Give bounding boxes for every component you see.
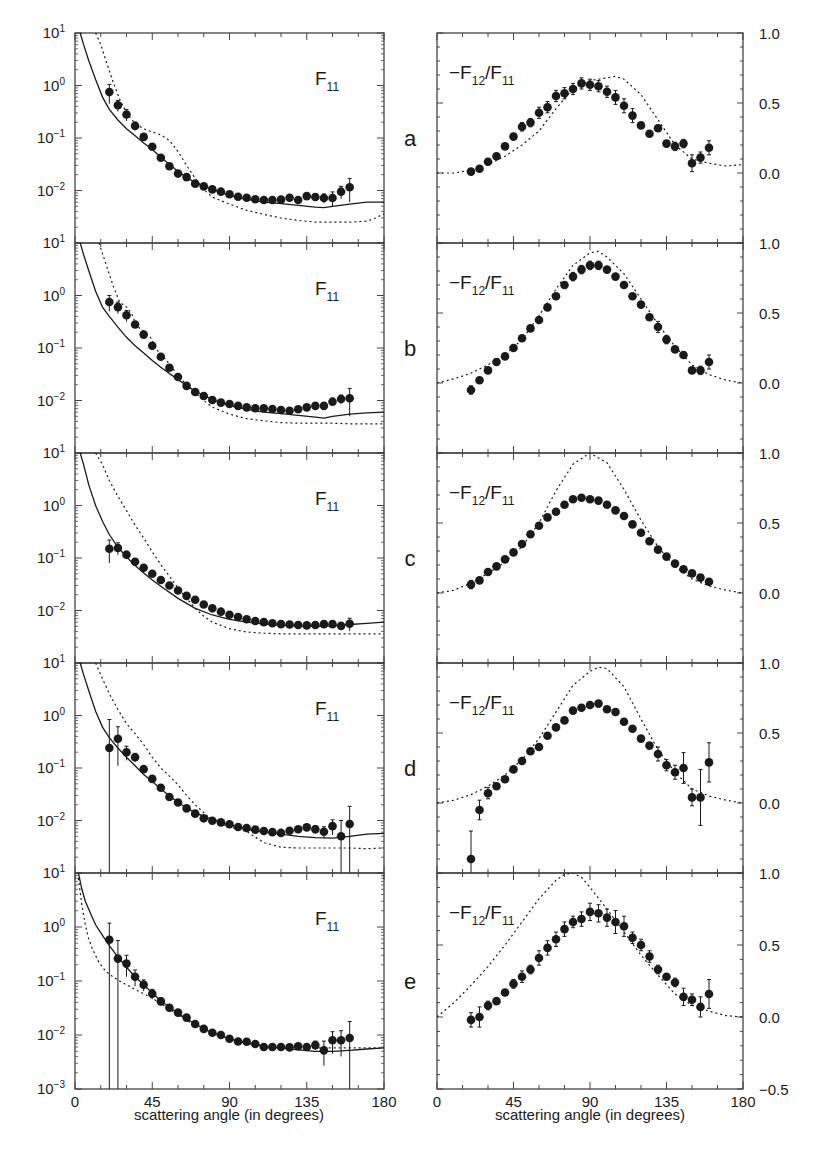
data-point: [518, 540, 527, 549]
data-point: [603, 501, 612, 510]
y-tick-label: 10−2: [37, 601, 66, 619]
data-point: [484, 366, 493, 375]
data-point: [543, 732, 552, 741]
plot-frame: [75, 33, 384, 243]
data-point: [620, 922, 629, 931]
data-point: [285, 193, 294, 202]
data-point: [696, 573, 705, 582]
data-point: [251, 195, 260, 204]
data-point: [603, 265, 612, 274]
f11-panel-a: 10−210−1100101F11: [37, 23, 384, 243]
left-column-f11-panels: 10−210−1100101F1110−210−1100101F1110−210…: [37, 23, 397, 1110]
data-point: [543, 944, 552, 953]
y-tick-label: 101: [43, 863, 66, 881]
polarization-title: −F12/F11: [449, 692, 515, 718]
model-curve-solid: [80, 33, 384, 208]
y-tick-label: 0.0: [759, 165, 780, 182]
data-point: [586, 495, 595, 504]
y-tick-label: 101: [43, 653, 66, 671]
model-curve-dotted: [437, 251, 743, 383]
panel-label-a: a: [404, 126, 417, 151]
data-point: [320, 194, 329, 203]
data-point: [586, 261, 595, 270]
data-point: [320, 827, 329, 836]
data-point: [345, 1034, 354, 1043]
data-point: [569, 85, 578, 94]
data-point: [552, 508, 561, 517]
data-point: [662, 139, 671, 148]
data-point: [671, 142, 680, 151]
data-point: [688, 569, 697, 578]
data-point: [501, 988, 510, 997]
polarization-title: −F12/F11: [449, 902, 515, 928]
y-tick-label: 100: [43, 286, 66, 304]
y-tick-label: 100: [43, 76, 66, 94]
data-point: [122, 748, 131, 757]
y-tick-label: 101: [43, 443, 66, 461]
data-point: [320, 620, 329, 629]
scattering-figure: 10−210−1100101F1110−210−1100101F1110−210…: [0, 0, 813, 1155]
model-curve-dotted: [437, 873, 743, 1017]
data-point: [620, 512, 629, 521]
data-point: [594, 82, 603, 91]
data-point: [628, 111, 637, 120]
data-point: [337, 187, 346, 196]
data-point: [560, 925, 569, 934]
data-point: [294, 196, 303, 205]
polarization-title: −F12/F11: [449, 62, 515, 88]
data-point: [586, 908, 595, 917]
data-point: [277, 829, 286, 838]
data-point: [603, 705, 612, 714]
data-point: [294, 825, 303, 834]
data-point: [637, 734, 646, 743]
data-point: [285, 826, 294, 835]
data-point: [535, 954, 544, 963]
data-point: [509, 344, 518, 353]
data-point: [467, 1016, 476, 1025]
data-point: [552, 92, 561, 101]
data-point: [628, 725, 637, 734]
model-curve-solid: [80, 453, 384, 626]
data-point: [645, 741, 654, 750]
f11-title: F11: [315, 698, 339, 724]
polarization-title: −F12/F11: [449, 482, 515, 508]
data-point: [535, 109, 544, 118]
data-point: [535, 743, 544, 752]
data-point: [467, 855, 476, 864]
data-point: [492, 997, 501, 1006]
data-point: [105, 935, 114, 944]
f11-title: F11: [315, 278, 339, 304]
data-point: [560, 716, 569, 725]
model-curve-dotted: [437, 667, 743, 803]
y-tick-label: 0.0: [759, 1009, 780, 1026]
plot-frame: [437, 663, 743, 873]
data-point: [328, 822, 337, 831]
data-point: [345, 394, 354, 403]
data-point: [311, 193, 320, 202]
y-tick-label: 0.0: [759, 795, 780, 812]
figure-svg: 10−210−1100101F1110−210−1100101F1110−210…: [0, 0, 813, 1155]
data-point: [105, 744, 114, 753]
polarization-panel-c: 1.00.50.0−F12/F11: [437, 445, 780, 663]
data-point: [114, 303, 123, 312]
data-point: [637, 941, 646, 950]
data-point: [114, 954, 123, 963]
data-point: [467, 167, 476, 176]
data-point: [628, 934, 637, 943]
panel-letter-labels: abcde: [404, 126, 417, 994]
data-point: [552, 935, 561, 944]
data-point: [268, 619, 277, 628]
data-point: [302, 192, 311, 201]
polarization-panel-e: 1.00.50.0−0.5−F12/F11: [437, 865, 789, 1098]
data-point: [586, 701, 595, 710]
data-point: [294, 405, 303, 414]
data-point: [552, 723, 561, 732]
data-point: [509, 132, 518, 141]
f11-title: F11: [315, 908, 339, 934]
data-point: [577, 494, 586, 503]
panel-label-b: b: [404, 336, 416, 361]
data-point: [645, 130, 654, 139]
data-point: [475, 806, 484, 815]
data-point: [620, 281, 629, 290]
y-tick-label: 10−1: [37, 548, 66, 566]
